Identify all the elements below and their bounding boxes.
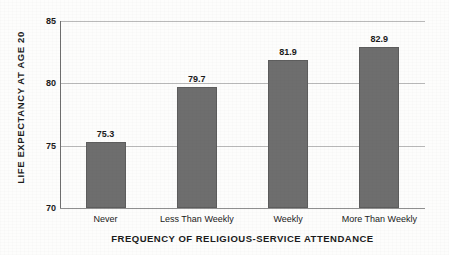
bar-more-than-weekly: [359, 47, 399, 208]
y-tick-label-80: 80: [34, 78, 56, 88]
y-tick-label-85: 85: [34, 16, 56, 26]
y-axis-title-text: LIFE EXPECTANCY AT AGE 20: [15, 31, 26, 184]
y-axis-title: LIFE EXPECTANCY AT AGE 20: [8, 0, 32, 215]
gridline-baseline-70: [60, 208, 425, 209]
category-label-less-than-weekly: Less Than Weekly: [151, 214, 242, 224]
plot-area: 75.379.781.982.9: [60, 21, 425, 208]
x-axis-title: FREQUENCY OF RELIGIOUS-SERVICE ATTENDANC…: [60, 233, 425, 244]
bar-never: [86, 142, 126, 208]
bar-value-label-weekly: 81.9: [243, 47, 334, 57]
bar-value-label-more-than-weekly: 82.9: [334, 34, 425, 44]
x-axis-category-labels: NeverLess Than WeeklyWeeklyMore Than Wee…: [60, 214, 425, 230]
bar-value-label-never: 75.3: [60, 129, 151, 139]
y-tick-label-75: 75: [34, 141, 56, 151]
bars-group: 75.379.781.982.9: [60, 21, 425, 208]
chart-figure: LIFE EXPECTANCY AT AGE 20 85 80 75 70 75…: [0, 0, 449, 255]
category-label-never: Never: [60, 214, 151, 224]
y-axis-tick-labels: 85 80 75 70: [30, 21, 56, 208]
category-label-weekly: Weekly: [243, 214, 334, 224]
bar-weekly: [268, 60, 308, 208]
category-label-more-than-weekly: More Than Weekly: [334, 214, 425, 224]
bar-less-than-weekly: [177, 87, 217, 208]
y-tick-label-70: 70: [34, 203, 56, 213]
bar-value-label-less-than-weekly: 79.7: [151, 74, 242, 84]
